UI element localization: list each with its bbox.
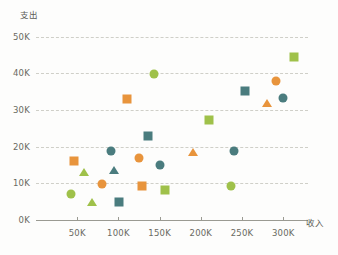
data-point-orange-triangle	[188, 148, 198, 156]
x-axis-title: 收入	[306, 216, 325, 228]
data-point-teal-circle	[155, 160, 164, 169]
x-tick-label: 100K	[107, 228, 130, 238]
y-tick-label: 0K	[4, 215, 30, 225]
data-point-orange-circle	[97, 180, 106, 189]
data-point-orange-circle	[271, 77, 280, 86]
x-tick-mark	[201, 217, 202, 221]
x-tick-mark	[242, 217, 243, 221]
plot-area	[36, 30, 308, 220]
gridline	[36, 110, 308, 111]
data-point-teal-square	[115, 198, 124, 207]
data-point-teal-circle	[279, 94, 288, 103]
gridline	[36, 73, 308, 74]
x-tick-mark	[283, 217, 284, 221]
data-point-teal-triangle	[109, 166, 119, 174]
data-point-teal-square	[144, 131, 153, 140]
x-tick-mark	[118, 217, 119, 221]
data-point-orange-square	[137, 182, 146, 191]
data-point-green-square	[289, 52, 298, 61]
x-tick-label: 250K	[231, 228, 254, 238]
y-tick-label: 30K	[4, 105, 30, 115]
data-point-orange-circle	[135, 153, 144, 162]
scatter-chart: 0K10K20K30K40K50K 50K100K150K200K250K300…	[0, 0, 338, 255]
data-point-green-circle	[149, 69, 158, 78]
y-tick-label: 10K	[4, 178, 30, 188]
y-tick-label: 40K	[4, 68, 30, 78]
data-point-teal-circle	[107, 147, 116, 156]
x-tick-label: 50K	[69, 228, 86, 238]
data-point-green-circle	[66, 190, 75, 199]
data-point-orange-square	[69, 157, 78, 166]
gridline	[36, 147, 308, 148]
data-point-green-square	[205, 116, 214, 125]
data-point-teal-circle	[229, 147, 238, 156]
y-axis-title: 支出	[20, 8, 39, 20]
y-tick-label: 50K	[4, 32, 30, 42]
data-point-green-circle	[226, 182, 235, 191]
x-tick-mark	[160, 217, 161, 221]
x-tick-label: 200K	[190, 228, 213, 238]
x-tick-label: 150K	[148, 228, 171, 238]
y-tick-label: 20K	[4, 142, 30, 152]
data-point-teal-square	[241, 86, 250, 95]
x-tick-label: 300K	[272, 228, 295, 238]
data-point-orange-square	[123, 94, 132, 103]
gridline	[36, 37, 308, 38]
x-tick-mark	[77, 217, 78, 221]
data-point-green-triangle	[79, 168, 89, 176]
data-point-green-triangle	[87, 198, 97, 206]
gridline	[36, 183, 308, 184]
data-point-green-square	[160, 185, 169, 194]
data-point-orange-triangle	[262, 99, 272, 107]
